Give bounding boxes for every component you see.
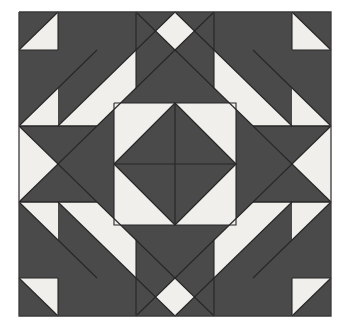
quilt-figure-root: Quilt Block Pattern Symmetric eight-by-e… bbox=[0, 0, 348, 336]
quilt-block-diagram: Quilt Block Pattern Symmetric eight-by-e… bbox=[0, 0, 348, 336]
